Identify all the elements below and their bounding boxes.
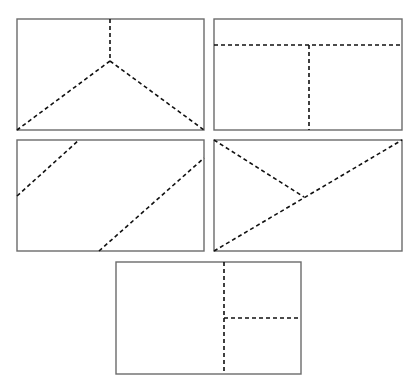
panel-3-frame (17, 140, 204, 251)
diagram-canvas (0, 0, 411, 386)
panel-3 (17, 140, 204, 251)
panel-1 (17, 19, 204, 130)
panel-3-dashed-cut-1 (17, 140, 79, 196)
panel-1-dashed-cut-2 (17, 61, 110, 130)
panel-3-dashed-cut-2 (99, 158, 204, 251)
panel-1-dashed-cut-3 (110, 61, 204, 130)
panel-4-dashed-cut-2 (214, 140, 304, 197)
panel-2-frame (214, 19, 402, 130)
panel-5 (116, 262, 301, 374)
panel-4 (214, 140, 402, 251)
panel-4-dashed-cut-1 (214, 140, 402, 251)
panel-2 (214, 19, 402, 130)
